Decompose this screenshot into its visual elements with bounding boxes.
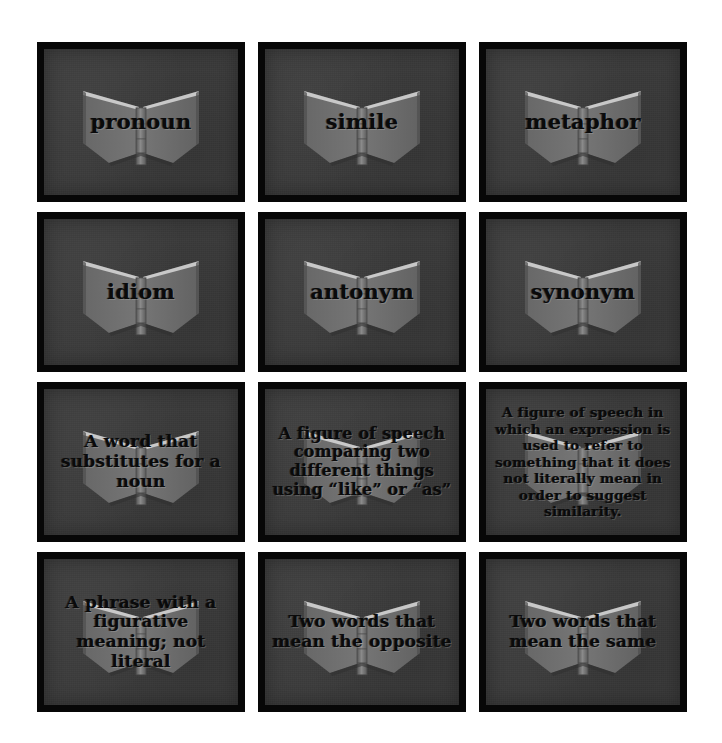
flashcard-simile-term[interactable]: simile	[258, 42, 466, 202]
flashcard-antonym-term[interactable]: antonym	[258, 212, 466, 372]
flashcard-pronoun-definition[interactable]: A word that substitutes for a noun	[37, 382, 245, 542]
card-text-idiom-term: idiom	[50, 280, 232, 303]
card-text-metaphor-term: metaphor	[492, 110, 674, 133]
flashcard-metaphor-definition[interactable]: A figure of speech in which an expressio…	[479, 382, 687, 542]
flashcard-pronoun-term[interactable]: pronoun	[37, 42, 245, 202]
card-text-metaphor-definition: A figure of speech in which an expressio…	[492, 404, 674, 519]
card-text-simile-definition: A figure of speech comparing two differe…	[271, 425, 453, 499]
card-text-antonym-term: antonym	[271, 280, 453, 303]
flashcard-simile-definition[interactable]: A figure of speech comparing two differe…	[258, 382, 466, 542]
card-text-pronoun-term: pronoun	[50, 110, 232, 133]
card-text-idiom-definition: A phrase with a figurative meaning; not …	[50, 593, 232, 672]
card-text-pronoun-definition: A word that substitutes for a noun	[50, 432, 232, 491]
card-text-synonym-term: synonym	[492, 280, 674, 303]
card-text-antonym-definition: Two words that mean the opposite	[271, 612, 453, 651]
flashcard-metaphor-term[interactable]: metaphor	[479, 42, 687, 202]
flashcard-idiom-term[interactable]: idiom	[37, 212, 245, 372]
flashcard-synonym-term[interactable]: synonym	[479, 212, 687, 372]
flashcard-antonym-definition[interactable]: Two words that mean the opposite	[258, 552, 466, 712]
card-text-simile-term: simile	[271, 110, 453, 133]
flashcard-synonym-definition[interactable]: Two words that mean the same	[479, 552, 687, 712]
flashcard-idiom-definition[interactable]: A phrase with a figurative meaning; not …	[37, 552, 245, 712]
card-text-synonym-definition: Two words that mean the same	[492, 612, 674, 651]
flashcard-grid: pronoun	[37, 42, 687, 712]
